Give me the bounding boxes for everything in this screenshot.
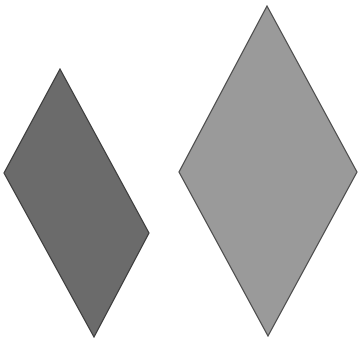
diagram-canvas bbox=[0, 0, 363, 339]
